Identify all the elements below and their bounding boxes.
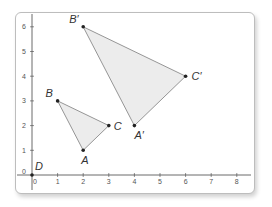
x-tick-label: 8 (235, 178, 239, 185)
x-tick-label: 3 (107, 178, 111, 185)
y-tick-label: 4 (22, 73, 26, 80)
point-label: D (35, 160, 43, 172)
x-tick-label: 0 (33, 178, 37, 185)
point-label: C′ (192, 70, 203, 82)
y-tick-label: 0 (22, 168, 26, 175)
y-tick-label: 5 (22, 48, 26, 55)
point-label: A′ (133, 129, 144, 141)
triangle-a-primeb-primec-prime (83, 27, 185, 126)
y-tick-label: 6 (22, 23, 26, 30)
point-a-prime (133, 124, 137, 128)
x-tick-label: 7 (209, 178, 213, 185)
points: ABCA′B′C′D (30, 13, 202, 177)
point-b-prime (81, 25, 85, 29)
triangles (58, 27, 186, 151)
x-tick-label: 4 (132, 178, 136, 185)
y-tick-label: 3 (22, 97, 26, 104)
triangle-abc (58, 101, 109, 150)
y-tick-label: 2 (22, 122, 26, 129)
coordinate-plane: 0123456780123456 ABCA′B′C′D (0, 0, 272, 207)
point-label: A (80, 154, 88, 166)
x-tick-label: 2 (81, 178, 85, 185)
point-c (107, 124, 111, 128)
point-d (30, 173, 34, 177)
x-tick-label: 1 (56, 178, 60, 185)
point-c-prime (184, 74, 188, 78)
point-label: C (114, 120, 122, 132)
y-tick-label: 1 (22, 147, 26, 154)
point-a (81, 149, 85, 153)
x-tick-label: 6 (184, 178, 188, 185)
point-label: B′ (69, 13, 79, 25)
point-label: B (46, 87, 53, 99)
x-tick-label: 5 (158, 178, 162, 185)
point-b (56, 99, 60, 103)
